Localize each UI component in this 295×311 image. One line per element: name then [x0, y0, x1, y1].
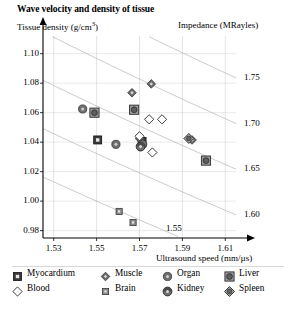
- y-tick-label: 1.10: [5, 48, 39, 58]
- marker-diamond-open: [157, 115, 166, 124]
- caption-fragment: [10, 301, 280, 310]
- legend-marker-square-filled: [12, 268, 23, 279]
- marker-diamond-open: [13, 286, 22, 295]
- marker-square-circle-inner: [227, 273, 233, 279]
- y-axis-label-tail: ): [95, 22, 98, 32]
- axes: [40, 17, 255, 241]
- marker-square-small-inner: [104, 290, 106, 292]
- legend-label: Myocardium: [27, 268, 75, 279]
- y-tick-label: 1.04: [5, 136, 39, 146]
- marker-square-circle-inner: [203, 158, 209, 164]
- marker-circle-shaded-inner: [166, 290, 169, 293]
- x-axis-label: Ultrasound speed (mm/µs): [156, 253, 252, 263]
- legend-label: Blood: [27, 283, 50, 294]
- legend-label: Muscle: [115, 268, 142, 279]
- marker-circle-inner: [114, 143, 117, 146]
- impedance-contour-label: 1.60: [244, 209, 260, 219]
- y-axis-label-text: Tissue density (g/cm: [17, 22, 92, 32]
- marker-square-inner: [16, 274, 19, 277]
- marker-diamond-shaded-inner: [227, 289, 232, 294]
- legend-label: Liver: [239, 268, 259, 279]
- legend-marker-diamond-shaded: [224, 283, 235, 294]
- legend-label: Spleen: [239, 283, 264, 294]
- impedance-contour-line: [149, 37, 236, 78]
- x-tick-label: 1.59: [165, 243, 199, 253]
- chart-legend: MyocardiumMuscleOrganLiverBloodBrainKidn…: [12, 266, 284, 296]
- impedance-contour-label: 1.70: [244, 118, 260, 128]
- marker-square-circle-inner: [131, 107, 137, 113]
- legend-item-muscle[interactable]: Muscle: [100, 266, 142, 280]
- legend-item-myocardium[interactable]: Myocardium: [12, 266, 75, 280]
- x-tick-label: 1.55: [80, 243, 114, 253]
- impedance-contour-label: 1.65: [244, 163, 260, 173]
- y-axis-label: Tissue density (g/cm3): [17, 20, 98, 32]
- legend-item-spleen[interactable]: Spleen: [224, 281, 264, 295]
- marker-circle-shaded-inner: [139, 145, 142, 148]
- figure: Wave velocity and density of tissue Tiss…: [0, 0, 295, 311]
- legend-marker-square-circle: [224, 268, 235, 279]
- secondary-axis-label: Impedance (MRayles): [178, 20, 258, 30]
- legend-item-organ[interactable]: Organ: [162, 266, 200, 280]
- legend-marker-circle-filled: [162, 268, 173, 279]
- legend-label: Organ: [177, 268, 200, 279]
- impedance-contour-label: 1.75: [244, 72, 260, 82]
- impedance-contour-line: [43, 177, 178, 236]
- y-tick-label: 1.02: [5, 166, 39, 176]
- plot-canvas: [43, 36, 236, 238]
- legend-row: MyocardiumMuscleOrganLiver: [12, 266, 284, 280]
- marker-square-circle-inner: [92, 110, 98, 116]
- marker-circle-inner: [81, 107, 84, 110]
- legend-marker-circle-shaded: [162, 283, 173, 294]
- y-tick-label: 1.08: [5, 77, 39, 87]
- marker-diamond-shaded-inner: [186, 136, 191, 141]
- legend-item-blood[interactable]: Blood: [12, 281, 50, 295]
- series-kidney: [136, 142, 145, 151]
- legend-row: BloodBrainKidneySpleen: [12, 281, 284, 295]
- legend-item-liver[interactable]: Liver: [224, 266, 259, 280]
- marker-square-inner: [96, 138, 99, 141]
- marker-square-small-inner: [132, 221, 134, 223]
- legend-marker-square-small: [100, 283, 111, 294]
- series-liver: [90, 105, 211, 165]
- marker-square-small-inner: [118, 210, 120, 212]
- data-points: [79, 80, 211, 226]
- legend-item-brain[interactable]: Brain: [100, 281, 136, 295]
- legend-label: Brain: [115, 283, 136, 294]
- plot-area: [43, 36, 236, 238]
- y-tick-label: 1.06: [5, 107, 39, 117]
- legend-marker-diamond-open: [12, 283, 23, 294]
- legend-item-kidney[interactable]: Kidney: [162, 281, 204, 295]
- legend-top-divider: [12, 266, 284, 267]
- marker-diamond-open: [148, 148, 157, 157]
- marker-diamond-open: [145, 115, 154, 124]
- x-axis-arrowhead: [247, 235, 255, 242]
- y-tick-label: 0.98: [5, 225, 39, 235]
- legend-label: Kidney: [177, 283, 204, 294]
- x-tick-label: 1.57: [123, 243, 157, 253]
- x-tick-label: 1.53: [37, 243, 71, 253]
- x-tick-label: 1.61: [208, 243, 242, 253]
- chart-title: Wave velocity and density of tissue: [17, 4, 154, 14]
- legend-marker-diamond-filled: [100, 268, 111, 279]
- marker-circle-inner: [166, 275, 169, 278]
- y-tick-label: 1.00: [5, 195, 39, 205]
- impedance-contour-label: 1.55: [166, 223, 182, 233]
